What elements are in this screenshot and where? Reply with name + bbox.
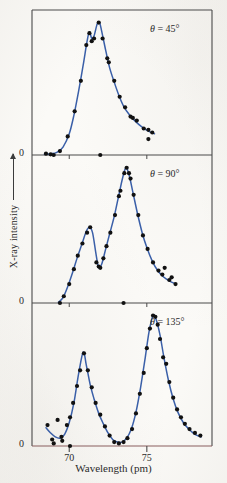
- data-point: [88, 225, 92, 229]
- data-point: [44, 152, 48, 156]
- data-point: [117, 194, 121, 198]
- data-point: [79, 79, 83, 83]
- data-point: [171, 396, 175, 400]
- data-point: [56, 418, 60, 422]
- panel-2-zero-label: 0: [19, 295, 24, 306]
- data-point: [145, 346, 149, 350]
- data-point: [141, 233, 145, 237]
- data-point: [58, 149, 62, 153]
- y-axis-arrow-icon: [13, 154, 14, 200]
- data-point: [148, 326, 152, 330]
- data-point: [98, 153, 102, 157]
- data-point: [112, 79, 116, 83]
- y-axis-title: X-ray intensity: [8, 205, 19, 268]
- x-axis-title: Wavelength (pm): [0, 462, 227, 474]
- data-point: [118, 189, 122, 193]
- data-point: [101, 256, 105, 260]
- data-point: [161, 355, 165, 359]
- data-point: [130, 427, 134, 431]
- data-point: [76, 254, 80, 258]
- data-point: [173, 282, 177, 286]
- data-point: [117, 441, 121, 445]
- data-point: [163, 266, 167, 270]
- data-point: [146, 247, 150, 251]
- data-point: [50, 437, 54, 441]
- data-point: [122, 171, 126, 175]
- data-point: [134, 411, 138, 415]
- data-point: [58, 301, 62, 305]
- data-point: [128, 176, 132, 180]
- fitted-curve: [46, 315, 201, 443]
- plot-canvas: [0, 0, 227, 483]
- data-point: [92, 36, 96, 40]
- panel-3-series: [45, 313, 202, 448]
- data-point: [71, 401, 75, 405]
- data-point: [80, 241, 84, 245]
- data-point: [85, 231, 89, 235]
- data-point: [86, 368, 90, 372]
- data-point: [179, 415, 183, 419]
- data-point: [136, 213, 140, 217]
- y-axis-title-group: X-ray intensity: [2, 136, 24, 286]
- data-point: [160, 273, 164, 277]
- fitted-curve: [58, 168, 176, 303]
- data-point: [59, 435, 63, 439]
- fitted-curve: [44, 22, 154, 154]
- data-point: [90, 385, 94, 389]
- data-point: [138, 392, 142, 396]
- data-point: [146, 128, 150, 132]
- data-point: [127, 171, 131, 175]
- data-point: [108, 231, 112, 235]
- data-point: [84, 43, 88, 47]
- data-point: [142, 371, 146, 375]
- data-point: [135, 118, 139, 122]
- data-point: [123, 105, 127, 109]
- panel-3-zero-label: 0: [19, 438, 24, 449]
- data-point: [62, 294, 66, 298]
- data-point: [193, 431, 197, 435]
- data-point: [150, 130, 154, 134]
- data-point: [131, 116, 135, 120]
- compton-scattering-figure: X-ray intensity Wavelength (pm) θ = 45°0…: [0, 0, 227, 483]
- panel-1-zero-label: 0: [19, 147, 24, 158]
- data-point: [187, 427, 191, 431]
- data-point: [167, 380, 171, 384]
- data-point: [68, 415, 72, 419]
- data-point: [66, 134, 70, 138]
- data-point: [52, 153, 56, 157]
- data-point: [67, 282, 71, 286]
- data-point: [125, 166, 129, 170]
- data-point: [97, 21, 101, 25]
- panel-3-theta-label: θ = 135°: [150, 316, 185, 327]
- data-point: [170, 275, 174, 279]
- panel-2-series: [58, 166, 178, 305]
- data-point: [82, 351, 86, 355]
- data-point: [98, 413, 102, 417]
- x-tick-label-75: 75: [139, 452, 155, 463]
- data-point: [158, 337, 162, 341]
- panel-1-series: [44, 21, 155, 158]
- x-tick-label-70: 70: [61, 452, 77, 463]
- data-point: [75, 384, 79, 388]
- panel-1-theta-label: θ = 45°: [150, 23, 180, 34]
- data-point: [121, 440, 125, 444]
- data-point: [87, 31, 91, 35]
- data-point: [183, 422, 187, 426]
- data-point: [107, 433, 111, 437]
- data-point: [94, 401, 98, 405]
- data-point: [175, 407, 179, 411]
- data-point: [60, 439, 64, 443]
- data-point: [132, 193, 136, 197]
- data-point: [72, 267, 76, 271]
- data-point: [45, 423, 49, 427]
- data-point: [68, 444, 72, 448]
- data-point: [151, 260, 155, 264]
- data-point: [78, 368, 82, 372]
- data-point: [94, 260, 98, 264]
- data-point: [125, 436, 129, 440]
- data-point: [98, 266, 102, 270]
- data-point: [156, 268, 160, 272]
- data-point: [113, 213, 117, 217]
- data-point: [107, 60, 111, 64]
- data-point: [52, 441, 56, 445]
